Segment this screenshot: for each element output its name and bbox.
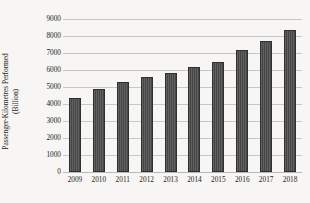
bar[interactable]: [93, 89, 105, 172]
y-tick-label: 1000: [33, 151, 61, 158]
x-tick-label: 2018: [278, 176, 302, 184]
bar-slot: [135, 19, 159, 172]
bar[interactable]: [117, 82, 129, 172]
y-tick-label: 2000: [33, 134, 61, 141]
bar[interactable]: [284, 30, 296, 172]
y-tick-label: 8000: [33, 32, 61, 39]
bar-slot: [63, 19, 87, 172]
bar-slot: [183, 19, 207, 172]
x-tick-label: 2011: [111, 176, 135, 184]
x-tick-label: 2012: [135, 176, 159, 184]
x-tick-label: 2010: [87, 176, 111, 184]
y-axis-title-line1: Passenger-Kilometres Performed: [1, 53, 10, 149]
y-tick-label: 6000: [33, 66, 61, 73]
y-tick-label: 7000: [33, 49, 61, 56]
bar-chart-figure: Passenger-Kilometres Performed (Billion)…: [0, 0, 310, 203]
bar-slot: [206, 19, 230, 172]
bar-slot: [254, 19, 278, 172]
bar[interactable]: [236, 50, 248, 172]
bar[interactable]: [165, 73, 177, 172]
y-tick-label: 3000: [33, 117, 61, 124]
bar-slot: [159, 19, 183, 172]
y-tick-label: 4000: [33, 100, 61, 107]
bar[interactable]: [260, 41, 272, 172]
y-axis-title: Passenger-Kilometres Performed (Billion): [0, 0, 30, 203]
y-tick-label: 9000: [33, 15, 61, 22]
bar[interactable]: [69, 98, 81, 172]
y-axis-tick-labels: 0100020003000400050006000700080009000: [33, 0, 61, 191]
x-tick-label: 2015: [206, 176, 230, 184]
bar-slot: [111, 19, 135, 172]
x-tick-label: 2014: [183, 176, 207, 184]
x-axis-tick-labels: 2009201020112012201320142015201620172018: [63, 176, 302, 190]
y-tick-label: 0: [33, 168, 61, 175]
bar[interactable]: [141, 77, 153, 172]
bar[interactable]: [188, 67, 200, 172]
bar-slot: [278, 19, 302, 172]
bar-slot: [87, 19, 111, 172]
x-tick-label: 2013: [159, 176, 183, 184]
y-tick-label: 5000: [33, 83, 61, 90]
bars-layer: [63, 19, 302, 172]
x-tick-label: 2016: [230, 176, 254, 184]
axis-baseline: [63, 172, 302, 173]
bar[interactable]: [212, 62, 224, 173]
bar-slot: [230, 19, 254, 172]
plot-area: [63, 19, 302, 172]
x-tick-label: 2009: [63, 176, 87, 184]
y-axis-title-line2: (Billion): [11, 53, 20, 149]
x-tick-label: 2017: [254, 176, 278, 184]
